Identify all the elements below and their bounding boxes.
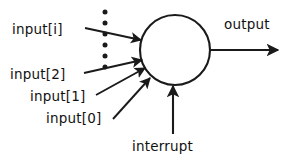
vertical-ellipsis-icon — [103, 10, 108, 70]
input-2-label: input[2] — [10, 66, 65, 82]
output-label: output — [224, 16, 270, 32]
input-0-arrow — [113, 78, 150, 119]
input-2-arrow — [84, 60, 142, 73]
input-i-label: input[i] — [12, 21, 63, 37]
input-1-label: input[1] — [30, 88, 85, 104]
interrupt-label: interrupt — [132, 138, 193, 154]
input-0-label: input[0] — [46, 110, 101, 126]
processing-node-circle — [140, 15, 210, 85]
diagram-canvas: input[i] input[2] input[1] input[0] inte… — [0, 0, 301, 165]
input-i-arrow — [85, 28, 141, 40]
